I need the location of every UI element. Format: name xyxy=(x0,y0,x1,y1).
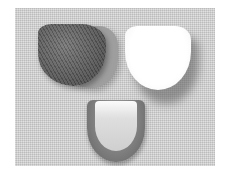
product-photo xyxy=(15,8,215,166)
u-shaped-pad-insert xyxy=(95,101,137,151)
